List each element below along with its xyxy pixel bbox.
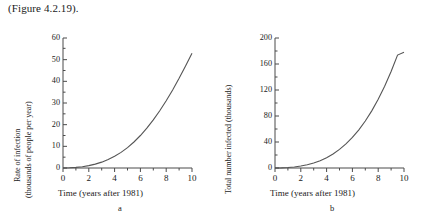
y-ticks-a [63, 38, 67, 168]
plot-area-a [0, 22, 212, 215]
y-tick-label-a-30: 30 [36, 98, 60, 107]
figure-caption: (Figure 4.2.19). [8, 2, 79, 14]
x-axis-title-a: Time (years after 1981) [10, 188, 222, 198]
x-tick-label-a-2: 2 [79, 173, 99, 183]
y-tick-label-b-0: 0 [244, 163, 272, 172]
data-curve-b [275, 52, 404, 168]
y-tick-label-b-40: 40 [244, 137, 272, 146]
y-tick-label-a-50: 50 [36, 55, 60, 64]
x-tick-label-a-4: 4 [105, 173, 125, 183]
y-tick-label-b-200: 200 [244, 33, 272, 42]
y-tick-label-a-10: 10 [36, 141, 60, 150]
y-tick-label-a-20: 20 [36, 120, 60, 129]
y-tick-label-b-120: 120 [244, 85, 272, 94]
panel-letter-b: b [226, 203, 424, 213]
x-tick-label-b-6: 6 [342, 173, 362, 183]
y-tick-label-b-160: 160 [244, 59, 272, 68]
x-tick-label-b-8: 8 [368, 173, 388, 183]
chart-panel-b: Total number infected (thousands) [212, 22, 424, 215]
x-axis-title-b: Time (years after 1981) [222, 188, 424, 198]
data-curve-a [63, 53, 192, 168]
x-tick-label-b-10: 10 [394, 173, 414, 183]
panel-letter-a: a [14, 203, 226, 213]
x-tick-label-a-6: 6 [130, 173, 150, 183]
x-tick-label-a-10: 10 [182, 173, 202, 183]
x-tick-label-a-8: 8 [156, 173, 176, 183]
y-tick-label-a-60: 60 [36, 33, 60, 42]
y-tick-label-a-0: 0 [36, 163, 60, 172]
y-tick-label-a-40: 40 [36, 76, 60, 85]
y-tick-label-b-80: 80 [244, 111, 272, 120]
x-tick-label-b-4: 4 [317, 173, 337, 183]
x-tick-label-a-0: 0 [53, 173, 73, 183]
x-tick-label-b-2: 2 [291, 173, 311, 183]
chart-panel-a: Rate of infection (thousands of people p… [0, 22, 212, 215]
x-tick-label-b-0: 0 [265, 173, 285, 183]
